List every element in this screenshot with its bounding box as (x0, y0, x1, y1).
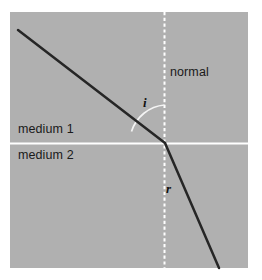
normal-label: normal (170, 65, 209, 79)
refraction-diagram-canvas: normal medium 1 medium 2 i r (0, 0, 262, 280)
medium-2-label: medium 2 (18, 148, 74, 162)
medium-1-label: medium 1 (18, 122, 74, 136)
angle-of-incidence-label: i (143, 95, 147, 110)
refraction-diagram-figure: normal medium 1 medium 2 i r (0, 0, 262, 280)
